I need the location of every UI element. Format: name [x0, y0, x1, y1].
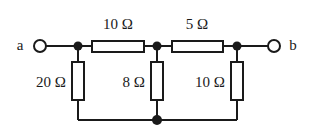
- terminal-b-label: b: [289, 38, 297, 53]
- series-resistor-2-value-label: 5 Ω: [186, 17, 208, 32]
- terminal-a-label: a: [17, 38, 24, 53]
- shunt-resistor-2-body: [151, 62, 163, 100]
- series-resistor-1-value-label: 10 Ω: [103, 17, 133, 32]
- shunt-resistor-2-value-label: 8 Ω: [123, 75, 145, 90]
- shunt-resistor-1-value-label: 20 Ω: [36, 75, 66, 90]
- terminal-b-circle: [268, 40, 280, 52]
- junction-node-ground-dot: [152, 115, 162, 125]
- junction-node-3-dot: [233, 42, 242, 51]
- terminal-a-circle: [34, 40, 46, 52]
- shunt-resistor-1-body: [72, 62, 84, 100]
- series-resistor-2-body: [172, 41, 223, 52]
- circuit-schematic-canvas: [0, 0, 321, 138]
- shunt-resistor-3-value-label: 10 Ω: [195, 75, 225, 90]
- circuit-diagram: a b 10 Ω 5 Ω 20 Ω 8 Ω 10 Ω: [0, 0, 321, 138]
- shunt-resistor-3-body: [231, 62, 243, 100]
- series-resistor-1-body: [92, 41, 144, 52]
- junction-node-2-dot: [153, 42, 162, 51]
- junction-node-1-dot: [74, 42, 83, 51]
